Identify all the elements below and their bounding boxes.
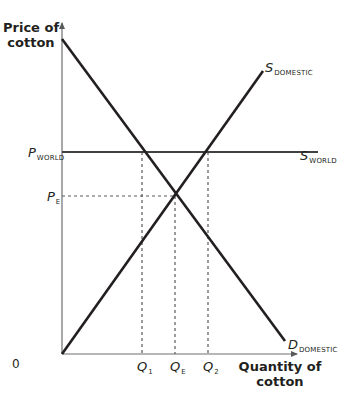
d-domestic-main: D xyxy=(288,337,298,352)
p-world-label: PWORLD xyxy=(28,144,64,160)
d-domestic-label: DDOMESTIC xyxy=(288,336,338,352)
qe-label: QE xyxy=(170,358,186,374)
d-domestic-line xyxy=(62,39,285,341)
s-domestic-label: SDOMESTIC xyxy=(265,59,313,75)
s-world-sub: WORLD xyxy=(309,157,337,165)
y-axis-title: Price of cotton xyxy=(3,20,59,50)
q2-main: Q xyxy=(203,359,213,374)
y-axis-title-line2: cotton xyxy=(3,35,59,50)
s-world-main: S xyxy=(300,148,308,163)
s-domestic-main: S xyxy=(265,60,273,75)
q1-main: Q xyxy=(137,359,147,374)
s-domestic-sub: DOMESTIC xyxy=(274,69,313,77)
x-axis-title-line1: Quantity of xyxy=(235,359,325,374)
q2-label: Q2 xyxy=(203,358,219,374)
qe-main: Q xyxy=(170,359,180,374)
p-e-label: PE xyxy=(47,188,60,204)
s-world-label: SWORLD xyxy=(300,147,337,163)
p-world-main: P xyxy=(28,145,36,160)
q2-sub: 2 xyxy=(214,368,219,376)
p-world-sub: WORLD xyxy=(37,154,65,162)
d-domestic-sub: DOMESTIC xyxy=(299,346,338,354)
q1-label: Q1 xyxy=(137,358,153,374)
x-axis-title-line2: cotton xyxy=(235,374,325,389)
qe-sub: E xyxy=(181,368,186,376)
p-e-sub: E xyxy=(56,198,61,206)
s-domestic-line xyxy=(62,71,263,354)
y-axis-title-line1: Price of xyxy=(3,20,59,35)
origin-label: 0 xyxy=(12,358,20,370)
p-e-main: P xyxy=(47,189,55,204)
x-axis-title: Quantity of cotton xyxy=(235,359,325,389)
q1-sub: 1 xyxy=(148,368,153,376)
